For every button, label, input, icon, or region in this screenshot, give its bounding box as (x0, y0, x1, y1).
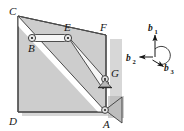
vector-b3-subscript: 3 (171, 68, 175, 75)
pin-joint-E (64, 34, 71, 41)
label-C: C (9, 5, 17, 17)
figure-container: C B E F G D A b 1 b 2 b 3 (0, 0, 184, 131)
triad-arc (155, 46, 170, 64)
label-E: E (63, 21, 71, 33)
label-F: F (99, 21, 107, 33)
pin-joint-B (28, 34, 35, 41)
link-BE (32, 35, 68, 42)
vector-b1-subscript: 1 (155, 28, 158, 35)
vector-triad: b 1 b 2 b 3 (126, 23, 175, 75)
label-D: D (8, 115, 17, 127)
vector-b1-label: b (148, 23, 153, 33)
vector-b3-label: b (164, 63, 169, 73)
vector-b2-subscript: 2 (133, 58, 136, 65)
label-B: B (28, 42, 35, 54)
frame-diagram-svg: C B E F G D A b 1 b 2 b 3 (0, 0, 184, 131)
vector-b2-label: b (126, 53, 131, 63)
label-G: G (111, 67, 119, 79)
label-A: A (102, 118, 110, 130)
vector-b3-arrow (153, 60, 164, 67)
